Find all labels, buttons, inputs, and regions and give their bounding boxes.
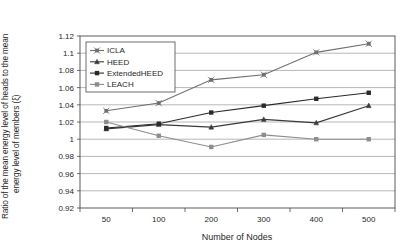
x-tick-labels: 50100200300400500 [102,215,376,224]
data-point-marker [104,120,108,124]
data-point-marker [262,133,266,137]
series-extendedheed [104,91,371,131]
y-tick-label: 1.1 [63,49,75,58]
data-point-marker [157,134,161,138]
y-tick-label: 0.92 [58,204,74,213]
series-leach [104,120,371,149]
legend-label: LEACH [107,80,134,89]
data-point-marker [209,110,213,114]
data-point-marker [104,126,108,130]
x-tick-label: 100 [152,215,166,224]
y-tick-label: 1.04 [58,101,74,110]
data-point-marker [262,103,266,107]
y-tick-label: 1.02 [58,118,74,127]
x-tick-label: 500 [362,215,376,224]
y-tick-label: 0.98 [58,152,74,161]
data-point-marker [367,137,371,141]
data-point-marker [95,71,99,75]
data-point-marker [367,91,371,95]
chart-figure: Ratio of the mean energy level of heads … [0,0,417,248]
chart-legend: ICLAHEEDExtendedHEEDLEACH [86,42,175,92]
plot-canvas: 0.920.940.960.9811.021.041.061.081.11.12… [0,0,417,248]
x-tick-label: 50 [102,215,111,224]
x-tick-label: 400 [310,215,324,224]
legend-label: HEED [107,58,129,67]
series-heed [104,103,371,131]
y-tick-label: 0.96 [58,170,74,179]
y-tick-label: 0.94 [58,187,74,196]
x-axis-title: Number of Nodes [202,232,273,242]
y-tick-label: 1.08 [58,66,74,75]
y-tick-label: 1.12 [58,32,74,41]
data-point-marker [157,122,161,126]
data-point-marker [314,97,318,101]
y-tick-label: 1 [70,135,75,144]
data-point-marker [366,103,371,108]
x-tick-label: 200 [205,215,219,224]
data-point-marker [95,82,99,86]
data-point-marker [209,145,213,149]
legend-label: ExtendedHEED [107,69,163,78]
y-tick-label: 1.06 [58,84,74,93]
legend-label: ICLA [107,46,125,55]
x-tick-label: 300 [257,215,271,224]
data-point-marker [314,137,318,141]
x-tick-marks [80,208,395,212]
y-tick-labels: 0.920.940.960.9811.021.041.061.081.11.12 [58,32,74,213]
